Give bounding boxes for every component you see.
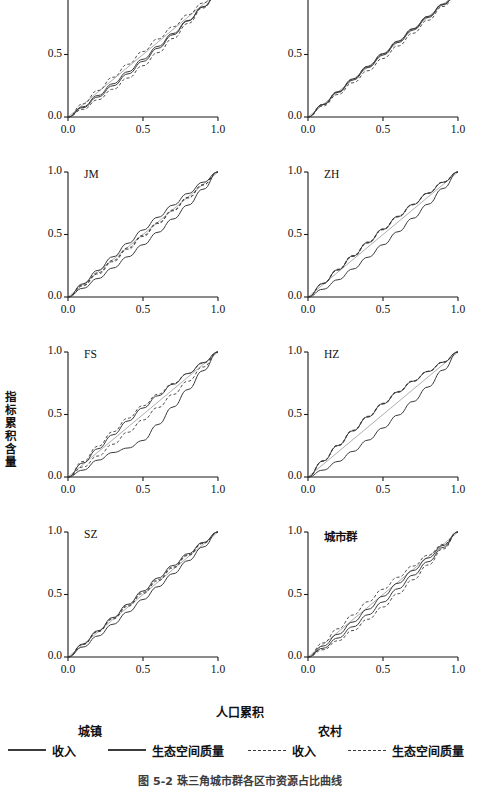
equality-reference-line	[308, 352, 458, 477]
y-tick-label: 0.0	[36, 649, 62, 661]
series-农村生态空间质量	[68, 0, 218, 117]
x-tick-label: 1.0	[202, 123, 234, 135]
x-tick-label: 0.5	[367, 663, 399, 675]
legend-label: 收入	[52, 742, 76, 759]
x-tick-label: 0.5	[127, 483, 159, 495]
panel-grid: GZ0.00.51.00.00.51.0ZQ0.00.51.00.00.51.0…	[0, 0, 480, 700]
legend-entry: 生态空间质量	[108, 740, 224, 760]
plot-area: GZ0.00.51.00.00.51.0	[68, 0, 218, 117]
plot-area: 城市群0.00.51.00.00.51.0	[308, 532, 458, 657]
x-tick-label: 0.0	[52, 123, 84, 135]
equality-reference-line	[68, 0, 218, 117]
y-tick-label: 1.0	[36, 344, 62, 356]
y-tick-label: 0.0	[276, 109, 302, 121]
y-tick-label: 1.0	[276, 524, 302, 536]
y-tick-label: 0.5	[276, 587, 302, 599]
y-tick-label: 0.0	[276, 289, 302, 301]
plot-area: ZQ0.00.51.00.00.51.0	[308, 0, 458, 117]
x-tick-label: 0.0	[52, 663, 84, 675]
x-tick-label: 0.5	[127, 123, 159, 135]
x-axis-label: 人口累积	[0, 703, 480, 720]
plot-area: ZH0.00.51.00.00.51.0	[308, 172, 458, 297]
panel-JM: JM0.00.51.00.00.51.0	[0, 162, 240, 342]
legend-label: 收入	[292, 742, 316, 759]
equality-reference-line	[308, 532, 458, 657]
legend-group-title: 城镇	[78, 722, 102, 739]
x-tick-label: 0.0	[292, 663, 324, 675]
figure-caption: 图 5-2 珠三角城市群各区市资源占比曲线	[0, 772, 480, 788]
legend-line-swatch	[348, 750, 386, 751]
plot-area: FS0.00.51.00.00.51.0	[68, 352, 218, 477]
legend-entry: 生态空间质量	[348, 740, 464, 760]
legend-line-swatch	[248, 750, 286, 751]
x-tick-label: 0.5	[127, 303, 159, 315]
y-tick-label: 0.0	[36, 469, 62, 481]
x-tick-label: 0.0	[292, 123, 324, 135]
x-tick-label: 0.0	[52, 303, 84, 315]
x-tick-label: 0.5	[367, 483, 399, 495]
series-农村收入	[68, 0, 218, 117]
panel-svg	[68, 352, 244, 491]
x-tick-label: 1.0	[202, 663, 234, 675]
legend-line-swatch	[8, 749, 46, 751]
panel-HZ: HZ0.00.51.00.00.51.0	[240, 342, 480, 522]
y-tick-label: 0.0	[276, 649, 302, 661]
legend-entry: 收入	[8, 740, 76, 760]
panel-SZ: SZ0.00.51.00.00.51.0	[0, 522, 240, 702]
x-tick-label: 0.5	[367, 303, 399, 315]
panel-svg	[308, 352, 480, 491]
series-城镇生态空间质量	[68, 0, 218, 117]
y-tick-label: 1.0	[276, 344, 302, 356]
y-tick-label: 0.0	[36, 289, 62, 301]
series-城镇收入	[68, 0, 218, 117]
y-tick-label: 0.5	[36, 407, 62, 419]
y-axis-label: 指标累积含量	[2, 391, 18, 469]
figure-legend: 城镇农村收入生态空间质量收入生态空间质量	[0, 722, 480, 766]
plot-area: SZ0.00.51.00.00.51.0	[68, 532, 218, 657]
panel-ZH: ZH0.00.51.00.00.51.0	[240, 162, 480, 342]
legend-label: 生态空间质量	[152, 742, 224, 759]
legend-entry: 收入	[248, 740, 316, 760]
y-tick-label: 0.5	[276, 407, 302, 419]
x-tick-label: 0.0	[292, 303, 324, 315]
y-tick-label: 0.5	[36, 227, 62, 239]
legend-group-title: 农村	[318, 722, 342, 739]
y-tick-label: 0.5	[36, 587, 62, 599]
equality-reference-line	[68, 352, 218, 477]
y-tick-label: 1.0	[276, 164, 302, 176]
equality-reference-line	[308, 172, 458, 297]
panel-FS: FS0.00.51.00.00.51.0	[0, 342, 240, 522]
x-tick-label: 1.0	[202, 483, 234, 495]
y-tick-label: 0.5	[276, 47, 302, 59]
panel-城市群: 城市群0.00.51.00.00.51.0	[240, 522, 480, 702]
x-tick-label: 0.5	[367, 123, 399, 135]
axis-spine	[68, 0, 218, 117]
x-tick-label: 0.0	[52, 483, 84, 495]
panel-svg	[68, 532, 244, 671]
panel-GZ: GZ0.00.51.00.00.51.0	[0, 0, 240, 162]
x-tick-label: 1.0	[442, 483, 474, 495]
x-tick-label: 1.0	[202, 303, 234, 315]
y-tick-label: 0.0	[36, 109, 62, 121]
y-tick-label: 0.0	[276, 469, 302, 481]
legend-label: 生态空间质量	[392, 742, 464, 759]
panel-svg	[68, 0, 244, 131]
plot-area: JM0.00.51.00.00.51.0	[68, 172, 218, 297]
x-tick-label: 1.0	[442, 663, 474, 675]
panel-svg	[308, 172, 480, 311]
x-tick-label: 0.5	[127, 663, 159, 675]
panel-ZQ: ZQ0.00.51.00.00.51.0	[240, 0, 480, 162]
y-tick-label: 1.0	[36, 164, 62, 176]
x-tick-label: 0.0	[292, 483, 324, 495]
y-tick-label: 0.5	[36, 47, 62, 59]
legend-line-swatch	[108, 749, 146, 751]
y-tick-label: 1.0	[36, 524, 62, 536]
x-tick-label: 1.0	[442, 303, 474, 315]
y-tick-label: 0.5	[276, 227, 302, 239]
panel-svg	[68, 172, 244, 311]
y-axis-label-char: 量	[2, 456, 18, 469]
panel-svg	[308, 0, 480, 131]
x-tick-label: 1.0	[442, 123, 474, 135]
panel-svg	[308, 532, 480, 671]
lorenz-curve-figure: GZ0.00.51.00.00.51.0ZQ0.00.51.00.00.51.0…	[0, 0, 480, 788]
